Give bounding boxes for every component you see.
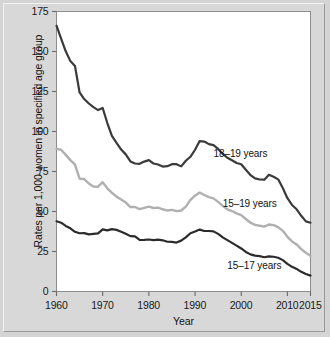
y-axis-tick-label: 0 [43,285,49,297]
y-axis-tick-label: 25 [37,245,48,257]
series-label: 15–17 years [227,260,281,271]
chart-figure: Rates per 1,000 women in specified age g… [0,0,330,337]
y-axis-tick-label: 125 [32,85,49,97]
x-axis-tick-label: 2000 [230,299,253,311]
x-axis-tick-label: 2010 [276,299,299,311]
series-line [57,26,311,223]
y-axis-tick-label: 75 [37,165,48,177]
series-label: 18–19 years [214,148,268,159]
series-label: 15–19 years [223,198,277,209]
x-axis-label: Year [56,315,311,327]
y-axis-tick-label: 100 [32,125,49,137]
x-axis-tick-label: 1970 [91,299,114,311]
y-axis-tick-label: 175 [32,5,49,17]
x-axis-tick-label: 2015 [299,299,322,311]
y-axis-tick-label: 50 [37,205,48,217]
x-axis-tick-label: 1980 [137,299,160,311]
x-axis-tick-label: 1960 [45,299,68,311]
x-axis-tick-label: 1990 [184,299,207,311]
chart-canvas [0,0,330,337]
y-axis-label-wrapper: Rates per 1,000 women in specified age g… [28,31,46,251]
y-axis-tick-label: 150 [32,45,49,57]
